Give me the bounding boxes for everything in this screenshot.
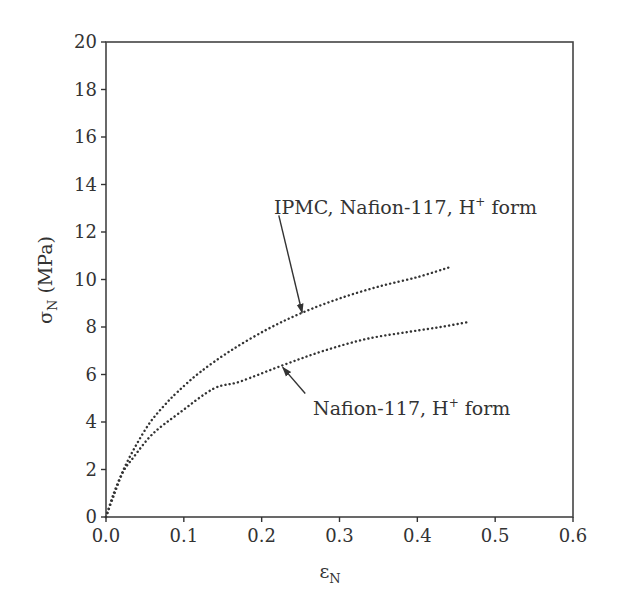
x-tick-label: 0.6: [559, 525, 588, 546]
y-tick-label: 6: [86, 364, 97, 385]
y-tick-label: 18: [74, 79, 97, 100]
y-tick-label: 16: [74, 126, 97, 147]
y-tick-label: 0: [86, 506, 97, 527]
plot-frame: [106, 42, 573, 517]
y-axis-label: σN (MPa): [34, 236, 60, 324]
y-tick-label: 4: [86, 411, 97, 432]
series-layer: [106, 268, 467, 517]
x-axis-ticks: 0.00.10.20.30.40.50.6: [92, 517, 588, 546]
y-tick-label: 20: [74, 31, 97, 52]
annotation-arrow-icon: [283, 367, 306, 393]
annotation-label-ipmc: IPMC, Nafion-117, H+ form: [274, 195, 537, 218]
x-tick-label: 0.1: [170, 525, 199, 546]
y-tick-label: 8: [86, 316, 97, 337]
y-tick-label: 10: [74, 269, 97, 290]
x-tick-label: 0.3: [325, 525, 354, 546]
y-axis-ticks: 02468101214161820: [74, 31, 106, 527]
annotation-layer: IPMC, Nafion-117, H+ formNafion-117, H+ …: [274, 195, 537, 419]
annotation-label-nafion: Nafion-117, H+ form: [313, 396, 510, 419]
x-tick-label: 0.0: [92, 525, 121, 546]
y-tick-label: 12: [74, 221, 97, 242]
series-ipmc-nafion-117-curve: [106, 268, 448, 517]
x-tick-label: 0.2: [247, 525, 276, 546]
stress-strain-chart: 02468101214161820 0.00.10.20.30.40.50.6 …: [0, 0, 617, 614]
x-tick-label: 0.4: [403, 525, 432, 546]
x-axis-label: εN: [319, 560, 340, 586]
y-tick-label: 2: [86, 459, 97, 480]
y-tick-label: 14: [74, 174, 97, 195]
annotation-arrow-icon: [279, 215, 302, 312]
x-tick-label: 0.5: [481, 525, 510, 546]
series-nafion-117-curve: [106, 322, 467, 517]
